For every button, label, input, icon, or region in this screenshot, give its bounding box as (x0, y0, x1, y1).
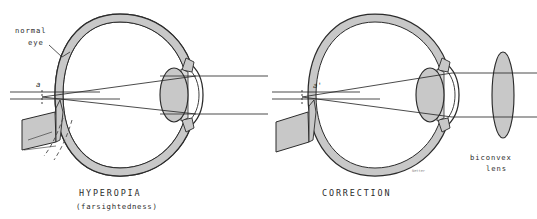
biconvex-lens-label-line1: biconvex (470, 153, 512, 162)
figure-canvas: normal eye a HYPEROPIA (farsightedness) (0, 0, 537, 219)
biconvex-lens-label-line2: lens (486, 164, 507, 173)
focal-point-label-a-prime: a' (313, 81, 322, 90)
correction-caption: CORRECTION (322, 188, 391, 198)
normal-eye-label-line1: normal (15, 26, 46, 35)
hyperopia-panel: normal eye a HYPEROPIA (farsightedness) (10, 14, 268, 211)
biconvex-lens (492, 52, 514, 138)
correction-panel: a' biconvex lens CORRECTION Netter (272, 14, 537, 198)
optic-nerve-right (276, 100, 316, 152)
eye-diagram-svg: normal eye a HYPEROPIA (farsightedness) (0, 0, 537, 219)
artist-signature: Netter (412, 169, 426, 173)
hyperopia-caption: HYPEROPIA (79, 188, 141, 198)
optic-nerve (22, 100, 63, 150)
incoming-light-rays (196, 76, 268, 114)
hyperopia-subcaption: (farsightedness) (76, 202, 158, 211)
focal-point-label-a: a (36, 80, 40, 89)
normal-eye-label-line2: eye (28, 38, 44, 47)
